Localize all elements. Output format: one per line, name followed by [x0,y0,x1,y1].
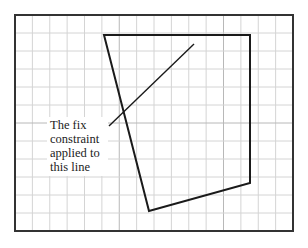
annotation-line-3: applied to [50,146,106,160]
annotation-line-1: The fix [50,118,106,132]
annotation-label: The fix constraint applied to this line [47,117,108,176]
annotation-line-2: constraint [50,132,106,146]
annotation-line-4: this line [50,160,106,174]
fixed-constraint-line[interactable] [109,44,194,126]
